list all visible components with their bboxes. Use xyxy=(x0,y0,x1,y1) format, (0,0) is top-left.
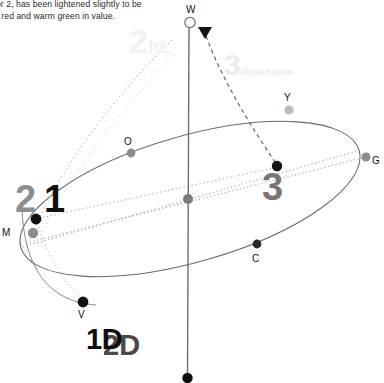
point-label-C: C xyxy=(252,253,259,264)
hue-marker-M xyxy=(28,228,38,238)
hue-marker-G xyxy=(361,152,370,161)
dotted-chord-guide xyxy=(26,157,366,243)
number-label-3: 3 xyxy=(262,168,283,206)
value-arc-upper xyxy=(36,219,84,302)
hue-marker-O xyxy=(127,149,136,158)
caption-line-2: o red and warm green in value. xyxy=(0,10,224,22)
ghost-label-highlight: 2hL xyxy=(129,24,171,58)
dotted-level-guide xyxy=(35,167,278,219)
point-label-V: V xyxy=(78,309,85,320)
black-point-marker xyxy=(182,373,192,383)
color-space-diagram: 2hL 3illumination 2 1 3 W O Y G C V M 2D… xyxy=(0,0,384,383)
point-label-O: O xyxy=(124,136,132,147)
number-label-1: 1 xyxy=(44,180,65,218)
ghost-illumination-main: 3 xyxy=(224,48,241,81)
hue-marker-Y xyxy=(284,105,293,114)
ghost-highlight-sub: hL xyxy=(148,36,171,57)
illumination-arrowhead xyxy=(198,27,212,39)
label-1d: 1D xyxy=(86,325,122,354)
hue-marker-C xyxy=(253,240,262,249)
point-label-G: G xyxy=(372,155,380,166)
center-gray-marker xyxy=(183,194,193,204)
caption-line-1: lor 2, has been lightened slightly to be xyxy=(0,0,224,10)
point-label-M: M xyxy=(2,227,10,238)
caption-text: lor 2, has been lightened slightly to be… xyxy=(0,0,224,23)
point-label-Y: Y xyxy=(284,92,291,103)
hue-marker-V xyxy=(78,297,89,308)
ghost-highlight-main: 2 xyxy=(129,22,148,60)
number-label-2: 2 xyxy=(15,180,36,218)
ghost-illumination-sub: illumination xyxy=(241,67,294,77)
ghost-label-illumination: 3illumination xyxy=(224,50,293,80)
